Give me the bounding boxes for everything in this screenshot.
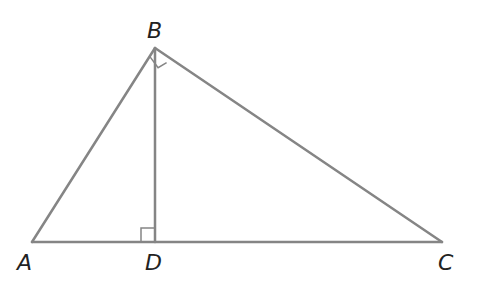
segment-ab	[32, 48, 155, 242]
right-angle-marker-d	[141, 228, 155, 242]
label-c: C	[438, 250, 454, 275]
triangle-diagram: B A D C	[0, 0, 484, 282]
label-a: A	[15, 250, 32, 275]
label-d: D	[145, 250, 162, 275]
right-angle-marker-b	[150, 56, 167, 67]
segment-bc	[155, 48, 442, 242]
label-b: B	[147, 18, 162, 43]
